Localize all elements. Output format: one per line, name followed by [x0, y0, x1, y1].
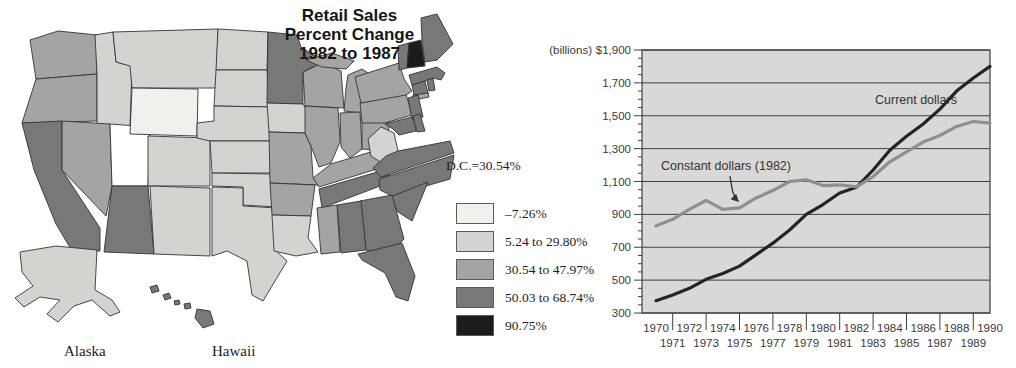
- state-wi: [303, 63, 344, 108]
- billions-axis-unit-label: (billions): [549, 44, 592, 56]
- state-hi-island-3: [174, 300, 180, 305]
- x-tick-label: 1977: [760, 337, 786, 349]
- x-tick-label: 1976: [743, 322, 769, 334]
- hawaii-label: Hawaii: [212, 343, 255, 360]
- y-tick-label: 900: [612, 208, 631, 220]
- x-tick-label: 1970: [643, 322, 669, 334]
- legend-swatch-2: [456, 231, 494, 252]
- state-ar: [270, 183, 315, 216]
- x-tick-label: 1984: [877, 322, 903, 334]
- x-tick-label: 1980: [810, 322, 836, 334]
- state-or: [22, 74, 97, 123]
- state-nm: [150, 186, 210, 256]
- plot-layer: $1,9001,7001,5001,3001,10090070050030019…: [596, 44, 1003, 349]
- y-tick-label: 1,100: [602, 176, 631, 188]
- map-title-line2: Percent Change: [237, 25, 462, 44]
- state-hi-island-5: [195, 309, 214, 328]
- series-annotation: Current dollars: [875, 93, 957, 107]
- x-tick-label: 1971: [660, 337, 686, 349]
- state-hi-island-2: [163, 293, 171, 300]
- state-ak: [15, 246, 120, 322]
- x-tick-label: 1973: [693, 337, 719, 349]
- legend-swatch-1: [456, 203, 494, 224]
- y-tick-label: 1,300: [602, 143, 631, 155]
- state-al: [337, 201, 366, 253]
- state-ks: [210, 141, 275, 173]
- state-ms: [317, 205, 340, 254]
- x-tick-label: 1990: [977, 322, 1003, 334]
- state-hi-island-4: [184, 303, 191, 309]
- state-wa: [30, 31, 97, 79]
- y-tick-label: 1,500: [602, 110, 631, 122]
- state-sd: [214, 70, 270, 107]
- retail-trade-line-chart: (billions) $1,9001,7001,5001,3001,100900…: [508, 0, 1016, 368]
- retail-trade-chart-panel: (billions) $1,9001,7001,5001,3001,100900…: [508, 0, 1016, 368]
- legend-swatch-5: [456, 315, 494, 336]
- state-in: [340, 112, 362, 158]
- map-title-line3: 1982 to 1987: [237, 44, 462, 63]
- x-tick-label: 1988: [944, 322, 970, 334]
- x-tick-label: 1983: [860, 337, 886, 349]
- map-title: Retail Sales Percent Change 1982 to 1987: [237, 6, 462, 63]
- state-fl: [358, 243, 415, 301]
- legend-swatch-4: [456, 287, 494, 308]
- y-tick-label: 700: [612, 241, 631, 253]
- x-tick-label: 1978: [777, 322, 803, 334]
- x-tick-label: 1985: [894, 337, 920, 349]
- x-tick-label: 1972: [677, 322, 703, 334]
- state-la: [272, 215, 318, 256]
- alaska-label: Alaska: [64, 343, 106, 360]
- state-az: [104, 186, 154, 254]
- y-tick-label: 500: [612, 274, 631, 286]
- state-wy: [130, 88, 198, 136]
- x-tick-label: 1982: [844, 322, 870, 334]
- legend-swatch-3: [456, 259, 494, 280]
- y-tick-label: 300: [612, 307, 631, 319]
- x-tick-label: 1986: [910, 322, 936, 334]
- y-tick-label: $1,900: [596, 44, 631, 56]
- map-title-line1: Retail Sales: [237, 6, 462, 25]
- series-annotation: Constant dollars (1982): [661, 159, 791, 173]
- state-co: [148, 136, 210, 186]
- y-tick-label: 1,700: [602, 77, 631, 89]
- x-tick-label: 1979: [794, 337, 820, 349]
- x-tick-label: 1974: [710, 322, 736, 334]
- state-ia: [267, 103, 311, 133]
- x-tick-label: 1989: [961, 337, 987, 349]
- x-tick-label: 1981: [827, 337, 853, 349]
- x-tick-label: 1975: [727, 337, 753, 349]
- x-tick-label: 1987: [927, 337, 953, 349]
- state-hi-island-1: [150, 285, 159, 293]
- state-ne: [197, 106, 273, 141]
